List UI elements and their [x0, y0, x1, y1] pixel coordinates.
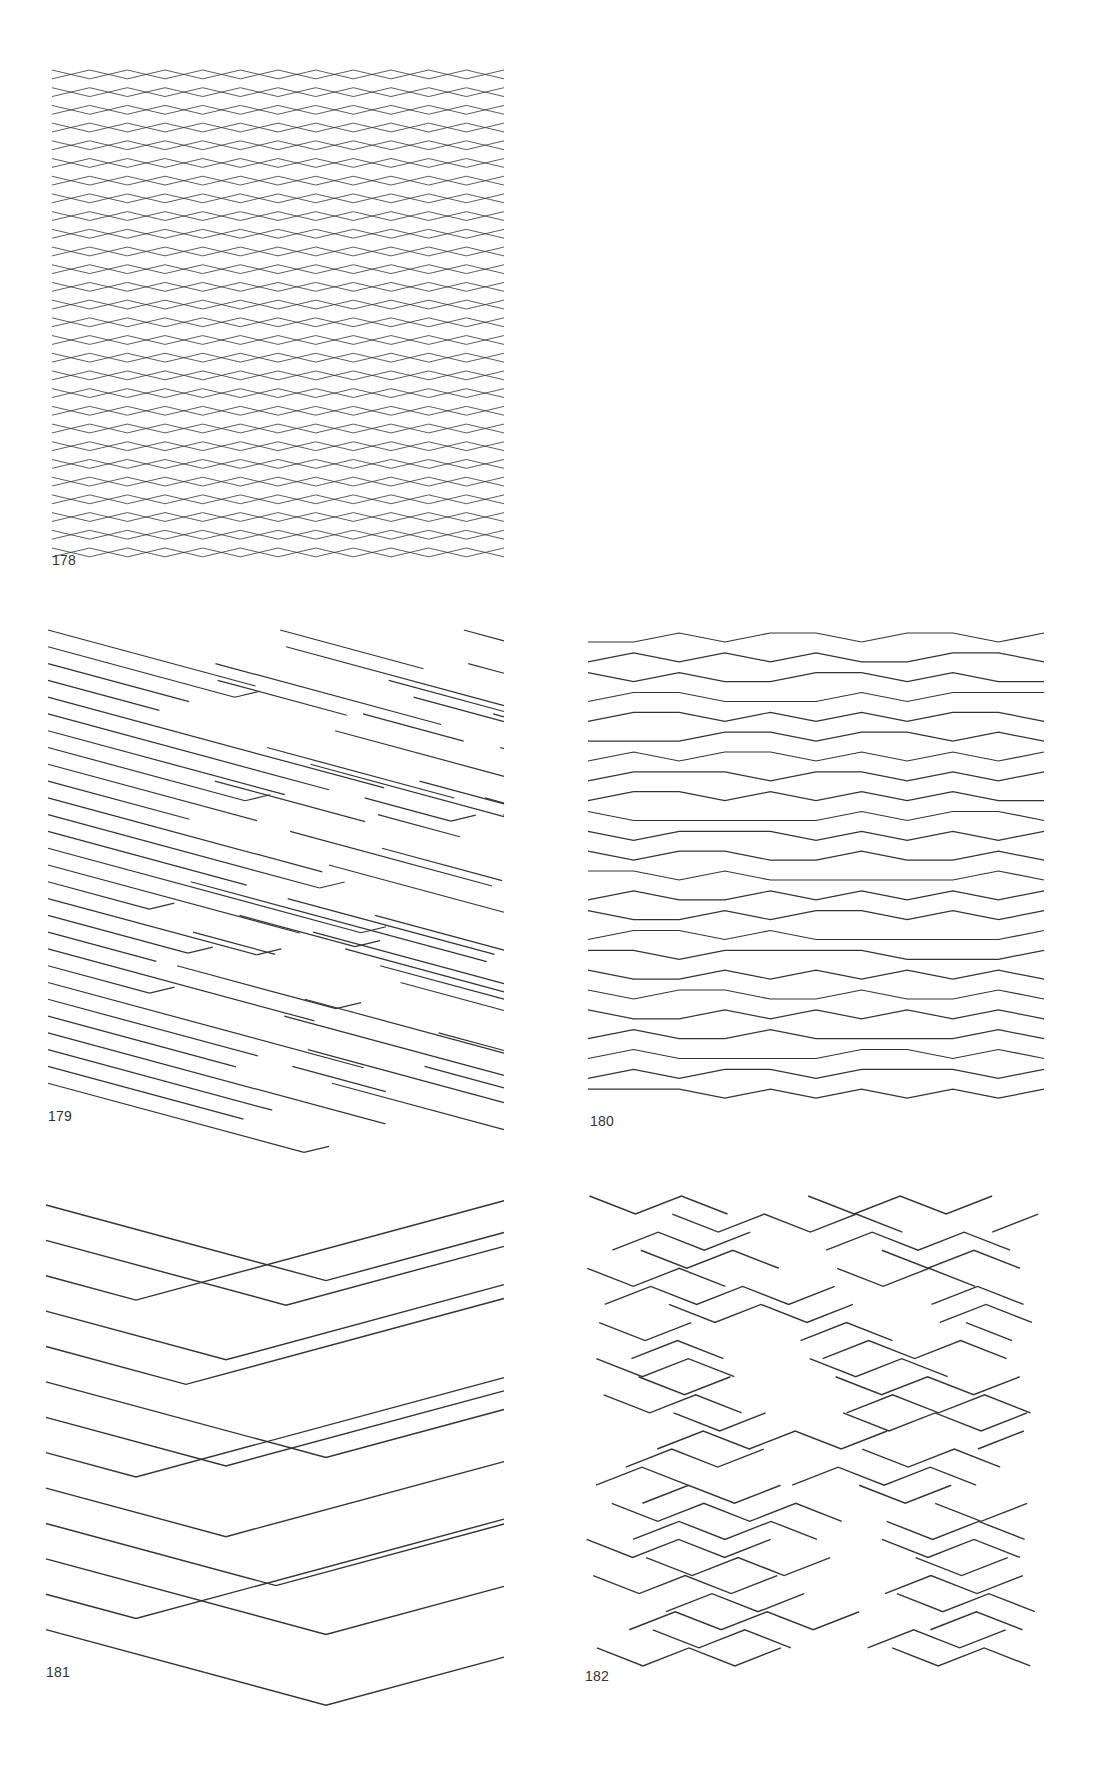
- figure-179: [48, 630, 504, 1100]
- figure-180: [588, 630, 1044, 1106]
- figure-182: [585, 1195, 1045, 1665]
- pattern-chevrons: [46, 1195, 504, 1655]
- pattern-lattice: [52, 70, 504, 548]
- pattern-maze-zigzag: [585, 1195, 1045, 1665]
- figure-label-181: 181: [46, 1664, 70, 1680]
- pattern-broken-diagonals: [48, 630, 504, 1100]
- figure-178: [52, 70, 504, 548]
- figure-label-179: 179: [48, 1108, 72, 1124]
- figure-label-178: 178: [52, 552, 76, 568]
- figure-label-180: 180: [590, 1113, 614, 1129]
- figure-181: [46, 1195, 504, 1655]
- pattern-zigzag: [588, 630, 1044, 1106]
- figure-label-182: 182: [585, 1668, 609, 1684]
